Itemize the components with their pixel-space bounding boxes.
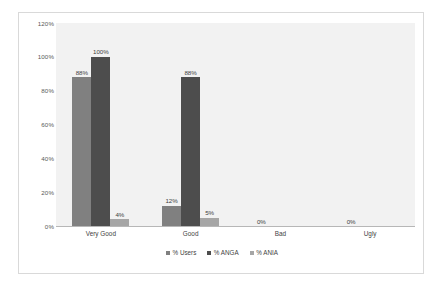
chart-legend: % Users% ANGA% ANIA <box>19 249 425 256</box>
legend-swatch-icon <box>207 251 211 255</box>
bar-anga[interactable] <box>91 57 110 226</box>
legend-item[interactable]: % Users <box>166 249 196 256</box>
bar-slot: 0% <box>252 23 271 226</box>
bar-group: 0% <box>236 23 326 226</box>
x-axis-label-good: Good <box>146 229 236 238</box>
legend-item[interactable]: % ANGA <box>207 249 238 256</box>
chart-plot-wrapper: 0%20%40%60%80%100%120% 88%100%4%12%88%5%… <box>19 13 425 275</box>
x-axis-label-ugly: Ugly <box>325 229 415 238</box>
bar-group: 12%88%5% <box>146 23 236 226</box>
bar-slot: 12% <box>162 23 181 226</box>
bar-users[interactable] <box>72 77 91 226</box>
bars-layer: 88%100%4%12%88%5%0%0% <box>56 23 415 226</box>
bar-slot <box>380 23 399 226</box>
x-axis-category-labels: Very GoodGoodBadUgly <box>56 229 415 243</box>
y-axis-tick-label: 0% <box>22 223 54 230</box>
x-axis-label-very-good: Very Good <box>56 229 146 238</box>
bar-value-label: 4% <box>100 211 140 218</box>
y-axis-tick-label: 120% <box>22 20 54 27</box>
legend-label: % ANIA <box>256 249 278 256</box>
bar-slot <box>271 23 290 226</box>
y-axis-tick-label: 80% <box>22 87 54 94</box>
y-axis-tick-label: 20% <box>22 189 54 196</box>
bar-group: 0% <box>325 23 415 226</box>
bar-anga[interactable] <box>181 77 200 226</box>
bar-group: 88%100%4% <box>56 23 146 226</box>
legend-swatch-icon <box>250 251 254 255</box>
bar-slot: 100% <box>91 23 110 226</box>
bar-ania[interactable] <box>110 219 129 226</box>
y-axis-tick-label: 100% <box>22 53 54 60</box>
bar-slot <box>361 23 380 226</box>
x-axis-line <box>56 226 415 227</box>
bar-slot: 4% <box>110 23 129 226</box>
legend-swatch-icon <box>166 251 170 255</box>
bar-ania[interactable] <box>200 218 219 226</box>
bar-slot: 0% <box>342 23 361 226</box>
bar-users[interactable] <box>162 206 181 226</box>
legend-label: % Users <box>173 249 197 256</box>
y-axis: 0%20%40%60%80%100%120% <box>19 13 54 275</box>
bar-slot: 5% <box>200 23 219 226</box>
bar-value-label: 5% <box>190 209 230 216</box>
y-axis-tick-label: 40% <box>22 155 54 162</box>
bar-slot: 88% <box>181 23 200 226</box>
y-axis-tick-label: 60% <box>22 121 54 128</box>
legend-label: % ANGA <box>214 249 239 256</box>
legend-item[interactable]: % ANIA <box>250 249 278 256</box>
x-axis-label-bad: Bad <box>236 229 326 238</box>
chart-container: 0%20%40%60%80%100%120% 88%100%4%12%88%5%… <box>18 12 424 274</box>
bar-slot <box>290 23 309 226</box>
